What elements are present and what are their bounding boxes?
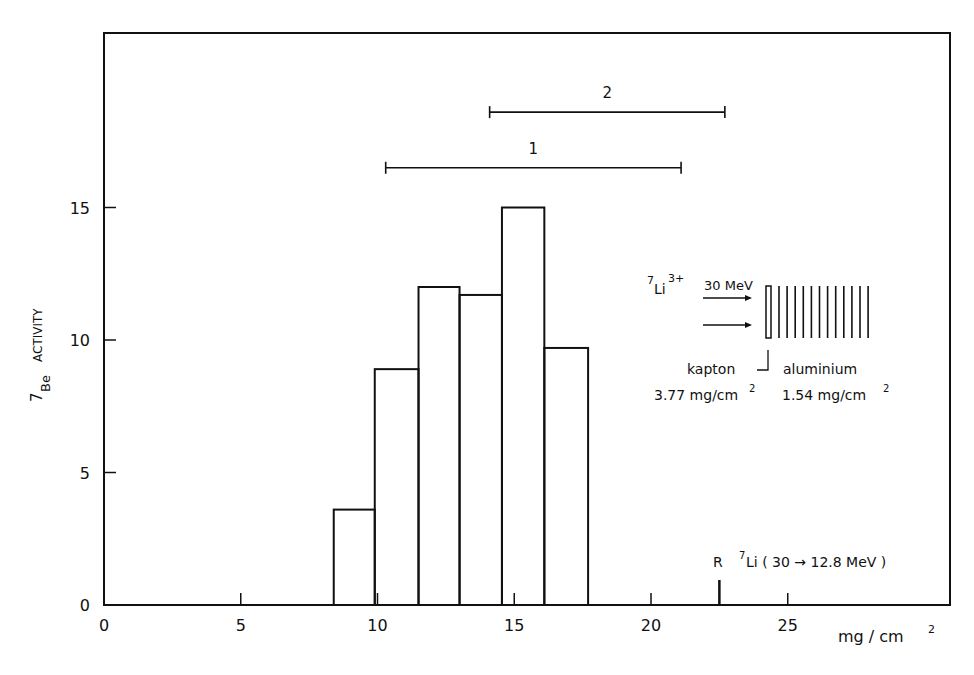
range-bars: 12 bbox=[386, 84, 725, 174]
inset-sup: 2 bbox=[749, 383, 755, 394]
kapton-pointer bbox=[757, 350, 768, 370]
inset-aluminium-label: aluminium bbox=[783, 361, 857, 377]
x-tick-label: 25 bbox=[778, 616, 798, 635]
x-axis-label: mg / cm bbox=[838, 627, 904, 646]
range-label-1: 1 bbox=[529, 140, 539, 158]
inset-kapton-label: kapton bbox=[687, 361, 735, 377]
histogram-bar bbox=[375, 369, 419, 605]
target-stack-inset: 7 Li 3+ 30 MeV kapton aluminium 3.77 mg/… bbox=[647, 272, 889, 403]
histogram-bars bbox=[334, 208, 588, 606]
x-tick-label: 20 bbox=[641, 616, 661, 635]
marker-annotation: Li ( 30 → 12.8 MeV ) bbox=[746, 554, 886, 570]
x-tick-label: 10 bbox=[367, 616, 387, 635]
y-tick-label: 10 bbox=[70, 331, 90, 350]
y-axis-label: 7 Be ACTIVITY bbox=[28, 308, 53, 402]
histogram-bar bbox=[502, 208, 544, 606]
inset-ion: Li bbox=[654, 281, 666, 297]
x-axis-label-sup: 2 bbox=[928, 623, 935, 636]
histogram-chart: 0510152025 051015 12 R 7 Li ( 30 → 12.8 … bbox=[0, 0, 974, 675]
y-axis-label-sub: Be bbox=[38, 375, 53, 392]
inset-sup: 2 bbox=[883, 383, 889, 394]
arrow-head-icon bbox=[745, 322, 752, 328]
inset-mass-sup: 7 bbox=[647, 274, 654, 287]
x-tick-label: 15 bbox=[504, 616, 524, 635]
y-axis-label-main: ACTIVITY bbox=[31, 308, 45, 362]
histogram-bar bbox=[544, 348, 588, 605]
y-axis-ticks: 051015 bbox=[70, 199, 116, 616]
inset-aluminium-thickness: 1.54 mg/cm bbox=[782, 387, 866, 403]
marker-superscript: 7 bbox=[739, 550, 745, 561]
histogram-bar bbox=[460, 295, 502, 605]
inset-kapton-thickness: 3.77 mg/cm bbox=[654, 387, 738, 403]
histogram-bar bbox=[334, 510, 375, 605]
x-tick-label: 5 bbox=[236, 616, 246, 635]
arrow-head-icon bbox=[745, 295, 752, 301]
inset-energy: 30 MeV bbox=[704, 278, 753, 293]
histogram-bar bbox=[419, 287, 460, 605]
inset-charge: 3+ bbox=[668, 272, 684, 285]
y-axis-label-sup: 7 bbox=[28, 392, 46, 402]
range-label-2: 2 bbox=[602, 84, 612, 102]
y-tick-label: 0 bbox=[80, 596, 90, 615]
marker-r-label: R bbox=[713, 554, 723, 570]
x-tick-label: 0 bbox=[99, 616, 109, 635]
x-axis-ticks: 0510152025 bbox=[99, 593, 798, 635]
aluminium-foils bbox=[779, 286, 868, 338]
kapton-foil bbox=[766, 286, 771, 338]
plot-frame bbox=[104, 33, 950, 605]
y-tick-label: 15 bbox=[70, 199, 90, 218]
y-tick-label: 5 bbox=[80, 464, 90, 483]
